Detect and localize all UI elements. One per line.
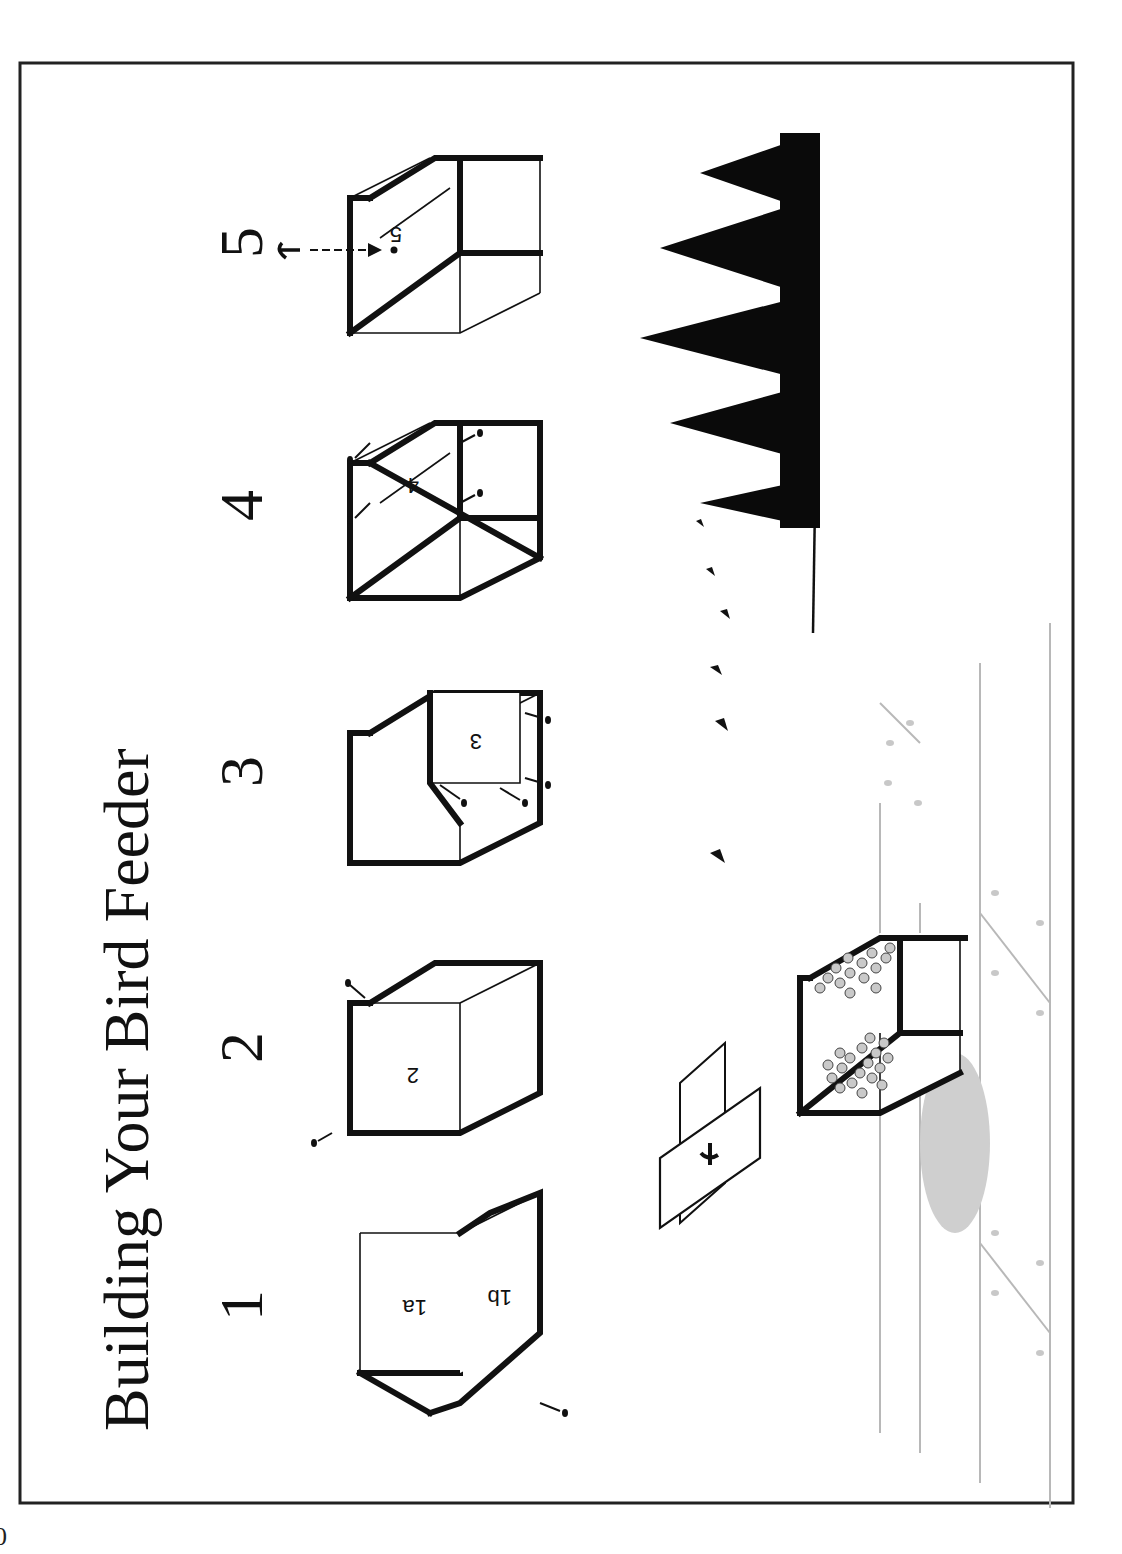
panel-label-2: 2 — [407, 1063, 419, 1088]
step-number-1: 1 — [207, 1290, 275, 1321]
worksheet: Building Your Bird Feeder 1 2 3 4 5 1a 1… — [0, 0, 1122, 1554]
step-number-2: 2 — [207, 1032, 275, 1063]
step-number-3: 3 — [207, 756, 275, 787]
page-title: Building Your Bird Feeder — [91, 748, 162, 1431]
panel-label-4: 4 — [407, 473, 419, 498]
step-4-diagram: 4 — [347, 423, 540, 598]
step-number-5: 5 — [207, 227, 275, 258]
step-number-4: 4 — [207, 490, 275, 521]
panel-label-3: 3 — [470, 729, 482, 754]
panel-label-1b: 1b — [488, 1285, 512, 1310]
panel-label-5: 5 — [390, 222, 402, 247]
panel-label-1a: 1a — [402, 1295, 427, 1320]
